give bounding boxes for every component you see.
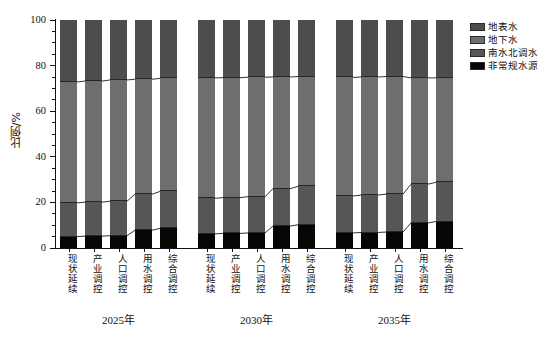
bar (110, 20, 127, 248)
bar-segment (386, 77, 403, 195)
bar (135, 20, 152, 248)
segment-boundary-line (85, 80, 102, 81)
bar-segment (198, 198, 215, 234)
segment-boundary-line (273, 188, 290, 189)
legend-swatch-icon (470, 36, 485, 44)
x-axis-tick (395, 248, 396, 252)
bar-segment (336, 77, 353, 196)
legend-item: 地下水 (470, 34, 558, 46)
bar-segment (110, 80, 127, 201)
x-axis-tick (207, 248, 208, 252)
segment-boundary-line (298, 185, 315, 186)
x-axis-category-label: 现状延续 (199, 254, 215, 294)
bar-segment (386, 20, 403, 77)
legend-label: 地下水 (488, 35, 518, 45)
segment-boundary-line (436, 181, 453, 182)
bar-segment (135, 20, 152, 79)
bar-segment (386, 232, 403, 248)
segment-boundary-line (298, 76, 315, 77)
bar-segment (223, 20, 240, 78)
bar-segment (273, 189, 290, 226)
bar (60, 20, 77, 248)
bar-segment (248, 77, 265, 196)
x-axis-category-label: 用水调控 (412, 254, 428, 294)
bar-segment (336, 196, 353, 233)
y-axis-tick-label: 40 (36, 152, 47, 163)
x-axis-tick (420, 248, 421, 252)
legend-label: 地表水 (488, 22, 518, 32)
chart-figure: 020406080100 比例/% 现状延续产业调控人口调控用水调控综合调控现状… (0, 0, 560, 341)
x-axis-category-label: 产业调控 (362, 254, 378, 294)
bar (273, 20, 290, 248)
bar (361, 20, 378, 248)
bar-segment (411, 20, 428, 78)
bar (411, 20, 428, 248)
bar-segment (135, 79, 152, 194)
bar-segment (273, 226, 290, 248)
bar-segment (223, 78, 240, 198)
x-axis-category-label: 产业调控 (86, 254, 102, 294)
bar-segment (361, 77, 378, 195)
legend-label: 南水北调水 (488, 48, 538, 58)
bar-segment (223, 198, 240, 234)
bar-segment (436, 20, 453, 78)
bar-segment (436, 222, 453, 248)
segment-boundary-line (198, 197, 215, 198)
bar-segment (160, 20, 177, 78)
segment-boundary-line (248, 196, 265, 197)
x-axis-tick (169, 248, 170, 252)
segment-boundary-line (198, 77, 215, 78)
legend: 地表水地下水南水北调水非常规水源 (470, 21, 558, 73)
bar (298, 20, 315, 248)
bar-segment (110, 20, 127, 80)
segment-boundary-line (336, 232, 353, 233)
legend-swatch-icon (470, 62, 485, 70)
segment-boundary-line (411, 222, 428, 223)
segment-boundary-line (361, 232, 378, 233)
segment-boundary-line (60, 81, 77, 82)
segment-boundary-line (160, 77, 177, 78)
bar-segment (361, 195, 378, 232)
segment-boundary-line (336, 76, 353, 77)
legend-label: 非常规水源 (488, 61, 538, 71)
segment-boundary-line (436, 221, 453, 222)
bar-segment (336, 20, 353, 77)
x-axis-tick (345, 248, 346, 252)
y-axis-tick-label: 80 (36, 60, 47, 71)
segment-boundary-line (411, 77, 428, 78)
segment-boundary-line (223, 232, 240, 233)
y-axis-labels: 020406080100 (0, 0, 55, 341)
x-axis-group-label: 2025年 (89, 311, 149, 327)
bar-segment (298, 225, 315, 248)
bar-segment (198, 20, 215, 78)
bar-segment (361, 20, 378, 77)
bar-segment (160, 228, 177, 248)
bar (336, 20, 353, 248)
y-axis-title: 比例/% (9, 112, 25, 148)
x-axis-group-label: 2030年 (227, 311, 287, 327)
bar (248, 20, 265, 248)
segment-boundary-line (361, 194, 378, 195)
bar-segment (248, 233, 265, 248)
segment-boundary-line (273, 76, 290, 77)
x-axis-tick (119, 248, 120, 252)
segment-boundary-line (85, 235, 102, 236)
bar-segment (160, 191, 177, 228)
segment-boundary-line (110, 235, 127, 236)
y-axis-tick-label: 100 (30, 15, 46, 26)
bar-segment (110, 236, 127, 248)
x-axis-tick (282, 248, 283, 252)
bar-segment (110, 201, 127, 235)
x-axis-category-label: 人口调控 (387, 254, 403, 294)
bar-segment (273, 20, 290, 77)
x-axis-category-label: 综合调控 (161, 254, 177, 294)
y-axis-tick-label: 60 (36, 106, 47, 117)
segment-boundary-line (248, 232, 265, 233)
bar (160, 20, 177, 248)
bar-segment (198, 78, 215, 198)
x-axis-category-label: 用水调控 (136, 254, 152, 294)
bar-segment (361, 233, 378, 249)
bar-segment (248, 197, 265, 233)
x-axis-tick (232, 248, 233, 252)
segment-boundary-line (110, 79, 127, 80)
